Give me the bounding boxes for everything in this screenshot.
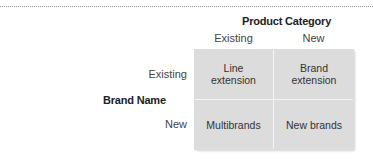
cell-text: Multibrands [206, 119, 260, 131]
cell-text: Line extension [211, 62, 256, 86]
column-label-existing: Existing [194, 32, 273, 44]
brand-strategy-matrix: Line extension Brand extension Multibran… [194, 49, 353, 149]
top-dotted-divider [0, 6, 373, 7]
column-label-new: New [274, 32, 353, 44]
row-axis-title: Brand Name [103, 94, 166, 106]
cell-text: Brand extension [292, 62, 337, 86]
cell-brand-extension: Brand extension [274, 49, 354, 99]
column-axis-title: Product Category [242, 15, 331, 27]
row-label-new: New [107, 118, 187, 130]
cell-new-brands: New brands [274, 100, 354, 150]
cell-multibrands: Multibrands [194, 100, 273, 150]
cell-line-extension: Line extension [194, 49, 273, 99]
cell-text: New brands [286, 119, 342, 131]
row-label-existing: Existing [107, 68, 187, 80]
